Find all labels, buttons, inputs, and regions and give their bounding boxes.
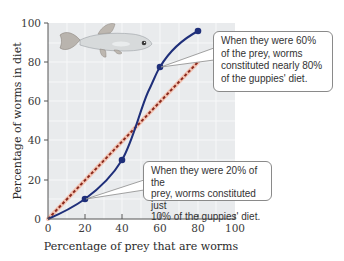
y-tick: 80 xyxy=(28,56,41,68)
x-tick: 20 xyxy=(78,222,91,234)
x-tick: 100 xyxy=(225,222,245,234)
callout-line: When they were 60% xyxy=(221,35,326,48)
y-tick: 20 xyxy=(28,174,41,186)
callout-line: 10% of the guppies' diet. xyxy=(151,211,265,223)
x-tick: 40 xyxy=(115,222,128,234)
y-tick: 0 xyxy=(34,213,41,225)
y-tick: 100 xyxy=(21,17,41,29)
x-tick: 60 xyxy=(153,222,166,234)
x-tick: 80 xyxy=(191,222,204,234)
callout-line: of the prey, worms xyxy=(221,48,326,61)
callout-line: prey, worms constituted just xyxy=(151,188,265,211)
y-tick: 40 xyxy=(28,134,41,146)
data-point xyxy=(195,28,202,35)
x-tick-labels: 0 20 40 60 80 100 xyxy=(45,222,245,234)
callout-line: constituted nearly 80% xyxy=(221,60,326,73)
data-point xyxy=(119,157,126,164)
callout-20-percent: When they were 20% of the prey, worms co… xyxy=(143,161,272,201)
x-tick: 0 xyxy=(45,222,52,234)
callout-line: of the guppies' diet. xyxy=(221,73,326,86)
y-axis-title: Percentage of worms in diet xyxy=(11,42,24,200)
x-axis-title: Percentage of prey that are worms xyxy=(44,240,239,253)
callout-60-percent: When they were 60% of the prey, worms co… xyxy=(213,31,333,92)
y-tick: 60 xyxy=(28,95,41,107)
callout-line: When they were 20% of the xyxy=(151,165,265,188)
